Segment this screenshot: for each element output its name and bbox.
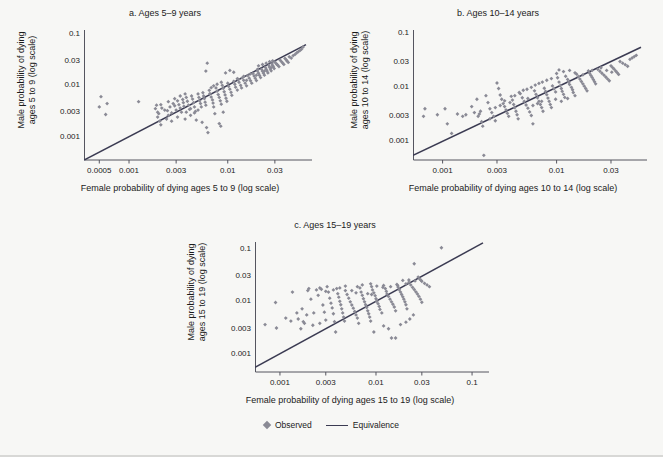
- data-point: [274, 301, 278, 305]
- data-point: [525, 87, 529, 91]
- panel-c-y-tick-label: 0.1: [213, 244, 251, 253]
- data-point: [408, 317, 412, 321]
- data-point: [475, 97, 479, 101]
- data-point: [372, 330, 376, 334]
- data-point: [382, 324, 386, 328]
- data-point: [573, 94, 577, 98]
- data-point: [328, 296, 332, 300]
- data-point: [183, 92, 187, 96]
- data-point: [548, 103, 552, 107]
- data-point: [322, 310, 326, 314]
- data-point: [99, 95, 103, 99]
- data-point: [394, 336, 398, 340]
- panel-c-x-tick-label: 0.001: [260, 378, 300, 387]
- data-point: [203, 100, 207, 104]
- data-point: [309, 297, 313, 301]
- data-point: [205, 61, 209, 65]
- data-point: [193, 105, 197, 109]
- data-point: [360, 283, 364, 287]
- data-point: [533, 83, 537, 87]
- panel-c-svg: [255, 242, 491, 380]
- data-point: [153, 107, 157, 111]
- panel-a-y-tick-label: 0.01: [42, 80, 80, 89]
- data-point: [212, 105, 216, 109]
- data-point: [257, 64, 261, 68]
- data-point: [554, 90, 558, 94]
- data-point: [366, 292, 370, 296]
- data-point: [369, 319, 373, 323]
- panel-a-x-tick-label: 0.003: [156, 166, 196, 175]
- panel-c-axis-spine: [256, 242, 490, 372]
- data-point: [610, 70, 614, 74]
- panel-b-y-tick-label: 0.001: [371, 136, 409, 145]
- panel-b-x-tick-label: 0.01: [537, 166, 577, 175]
- data-point: [325, 285, 329, 289]
- data-point: [228, 69, 232, 73]
- data-point: [296, 317, 300, 321]
- data-point: [390, 336, 394, 340]
- data-point: [368, 315, 372, 319]
- panel-a-y-axis-title: Male probability of dying ages 5 to 9 (l…: [16, 10, 38, 150]
- diamond-marker-icon: [263, 421, 271, 429]
- panel-a-x-tick-label: 0.01: [208, 166, 248, 175]
- data-point: [490, 111, 494, 115]
- panel-b-x-axis-title: Female probability of dying ages 10 to 1…: [368, 183, 658, 193]
- data-point: [486, 101, 490, 105]
- data-point: [571, 91, 575, 95]
- data-point: [213, 112, 217, 116]
- data-point: [557, 68, 561, 72]
- data-point: [337, 295, 341, 299]
- data-point: [514, 109, 518, 113]
- panel-b-plot-area: [413, 30, 649, 168]
- data-point: [166, 109, 170, 113]
- data-point: [526, 106, 530, 110]
- panel-b: b. Ages 10–14 years Male probability of …: [333, 0, 663, 205]
- panel-b-x-tick-label: 0.003: [477, 166, 517, 175]
- data-point: [321, 303, 325, 307]
- panel-c-x-tick-label: 0.1: [452, 378, 492, 387]
- data-point: [568, 69, 572, 73]
- data-point: [549, 77, 553, 81]
- panel-c-y-tick-label: 0.01: [213, 296, 251, 305]
- data-point: [470, 105, 474, 109]
- panel-c-x-tick-label: 0.003: [306, 378, 346, 387]
- panel-a-y-tick-label: 0.1: [42, 29, 80, 38]
- data-point: [331, 312, 335, 316]
- data-point: [343, 284, 347, 288]
- data-point: [537, 81, 541, 85]
- data-point: [222, 90, 226, 94]
- data-point: [191, 97, 195, 101]
- panel-b-x-tick-label: 0.001: [423, 166, 463, 175]
- panel-c-title: c. Ages 15–19 years: [170, 220, 500, 230]
- data-point: [311, 323, 315, 327]
- data-point: [176, 99, 180, 103]
- data-point: [520, 96, 524, 100]
- data-point: [482, 153, 486, 157]
- panel-c-y-tick-label: 0.03: [213, 271, 251, 280]
- data-point: [401, 279, 405, 283]
- data-point: [331, 288, 335, 292]
- data-point: [200, 120, 204, 124]
- data-point: [545, 78, 549, 82]
- data-point: [327, 290, 331, 294]
- data-point: [488, 107, 492, 111]
- panel-a-x-axis-title: Female probability of dying ages 5 to 9 …: [40, 183, 320, 193]
- data-point: [394, 309, 398, 313]
- panel-c-y-axis-title: Male probability of dying ages 15 to 19 …: [186, 222, 208, 362]
- data-point: [194, 118, 198, 122]
- panel-b-y-tick-label: 0.003: [371, 111, 409, 120]
- data-point: [493, 119, 497, 123]
- data-point: [341, 311, 345, 315]
- data-point: [529, 114, 533, 118]
- data-point: [199, 102, 203, 106]
- data-point: [204, 69, 208, 73]
- data-point: [528, 110, 532, 114]
- data-point: [181, 98, 185, 102]
- data-point: [564, 74, 568, 78]
- panel-b-y-axis-title: Male probability of dying ages 10 to 14 …: [349, 10, 371, 150]
- data-point: [484, 94, 488, 98]
- legend-item-observed: Observed: [264, 420, 312, 430]
- data-point: [348, 300, 352, 304]
- data-point: [190, 94, 194, 98]
- data-point: [336, 292, 340, 296]
